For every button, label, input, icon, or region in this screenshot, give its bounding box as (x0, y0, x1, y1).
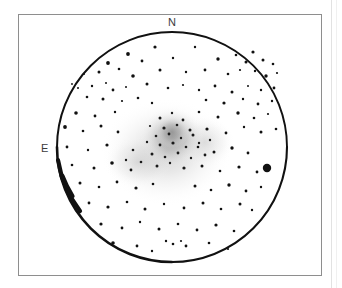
star-point (155, 135, 158, 138)
star-point (105, 82, 107, 84)
star-point (146, 141, 148, 143)
star-point (66, 146, 69, 149)
star-point (74, 111, 78, 115)
star-point (87, 149, 89, 151)
star-point (190, 157, 192, 159)
star-point (216, 57, 219, 60)
star-point (185, 245, 188, 248)
star-point (171, 141, 174, 144)
star-point (201, 165, 204, 168)
star-point (182, 119, 185, 122)
star-point (198, 111, 201, 114)
eyepiece-sketch (0, 0, 342, 288)
star-point (227, 248, 229, 250)
star-point (245, 61, 248, 64)
star-point (88, 202, 91, 205)
star-point (71, 164, 74, 167)
star-point (236, 111, 239, 114)
star-point (114, 111, 116, 113)
star-point (98, 186, 101, 189)
star-point (118, 68, 121, 71)
star-point (163, 203, 165, 205)
star-point (131, 74, 135, 78)
star-point (171, 112, 173, 114)
star-point (125, 86, 127, 88)
star-point (251, 50, 254, 53)
star-point (152, 183, 155, 186)
star-point (164, 156, 167, 159)
star-point (219, 170, 222, 173)
star-point (192, 134, 195, 137)
star-point (217, 116, 220, 119)
star-point (235, 54, 238, 57)
star-point (237, 165, 240, 168)
star-point (198, 89, 200, 91)
star-point (260, 89, 262, 91)
star-point (271, 100, 273, 102)
star-point (91, 85, 93, 87)
star-point (227, 183, 230, 186)
star-point (146, 83, 149, 86)
star-point (77, 87, 79, 89)
star-point (168, 133, 171, 136)
star-point (159, 117, 162, 120)
figure-page: N E (0, 0, 342, 288)
star-point (183, 207, 186, 210)
star-point (263, 164, 271, 172)
east-label: E (41, 143, 48, 154)
star-point (210, 189, 213, 192)
star-point (239, 203, 242, 206)
star-point (230, 146, 233, 149)
star-point (276, 72, 278, 74)
star-point (251, 209, 253, 211)
star-point (126, 201, 129, 204)
star-point (262, 59, 265, 62)
star-point (172, 57, 174, 59)
star-point (198, 142, 200, 144)
star-point (151, 153, 154, 156)
star-point (256, 171, 259, 174)
star-point (125, 159, 127, 161)
star-point (71, 83, 73, 85)
star-point (205, 99, 208, 102)
star-point (197, 146, 200, 149)
star-point (247, 85, 249, 87)
star-point (137, 97, 140, 100)
star-point (156, 165, 159, 168)
star-point (111, 241, 115, 245)
star-point (151, 102, 153, 104)
star-point (167, 87, 170, 90)
star-point (165, 240, 167, 242)
star-point (245, 190, 248, 193)
star-point (177, 223, 180, 226)
star-point (100, 125, 103, 128)
star-point (257, 103, 260, 106)
star-point (227, 73, 230, 76)
star-point (82, 130, 85, 133)
star-point (189, 129, 192, 132)
star-point (202, 202, 205, 205)
star-point (98, 71, 101, 74)
star-point (153, 45, 156, 48)
star-point (86, 96, 89, 99)
star-point (130, 169, 133, 172)
star-point (99, 222, 102, 225)
star-point (172, 243, 175, 246)
star-point (253, 117, 256, 120)
star-point (132, 149, 135, 152)
star-point (139, 221, 141, 223)
star-point (260, 131, 263, 134)
star-point (205, 127, 208, 130)
star-point (121, 100, 123, 102)
star-point (182, 166, 185, 169)
star-point (273, 87, 276, 90)
star-point (272, 63, 275, 66)
star-point (149, 125, 151, 127)
star-point (134, 186, 137, 189)
star-point (141, 60, 144, 63)
star-point (112, 89, 115, 92)
star-point (144, 208, 147, 211)
star-point (110, 161, 114, 165)
star-point (105, 143, 108, 146)
star-point (225, 132, 228, 135)
